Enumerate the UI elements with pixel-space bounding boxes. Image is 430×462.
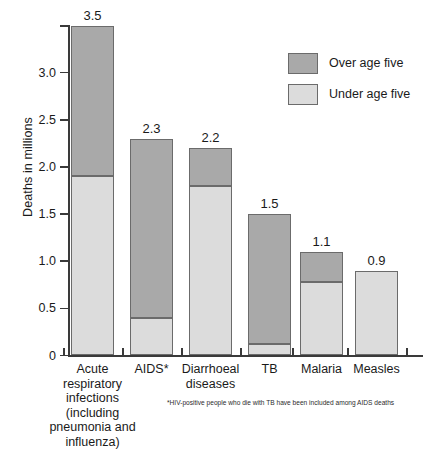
- y-axis-tick: [60, 166, 69, 168]
- bar-group[interactable]: [130, 0, 173, 356]
- legend-item-under-age-five[interactable]: Under age five: [288, 83, 410, 105]
- x-axis-tick: [63, 348, 65, 356]
- legend-label-under-age-five: Under age five: [329, 88, 410, 101]
- y-axis-tick-label: 2.5: [0, 114, 56, 127]
- chart-footnote: *HIV-positive people who die with TB hav…: [167, 399, 394, 407]
- bar-total-label: 1.5: [235, 197, 305, 210]
- bar-segment-over-age-five[interactable]: [248, 214, 291, 344]
- legend: Over age five Under age five: [288, 52, 410, 114]
- y-axis-tick-label: 0.5: [0, 302, 56, 315]
- x-axis-category-label: Measles: [341, 362, 413, 377]
- y-axis-tick: [60, 308, 69, 310]
- bar-segment-under-age-five[interactable]: [355, 271, 398, 356]
- x-axis-category-label: Diarrhoeal diseases: [171, 362, 251, 391]
- y-axis-tick: [60, 119, 69, 121]
- bar-group[interactable]: [189, 0, 232, 356]
- bar-segment-under-age-five[interactable]: [189, 186, 232, 356]
- bar-segment-over-age-five[interactable]: [189, 148, 232, 186]
- y-axis-tick: [60, 355, 69, 357]
- y-axis-tick: [60, 260, 69, 262]
- bar-segment-under-age-five[interactable]: [300, 282, 343, 356]
- x-axis-tick: [240, 348, 242, 356]
- x-axis-tick: [347, 348, 349, 356]
- legend-label-over-age-five: Over age five: [329, 57, 403, 70]
- y-axis-tick-label: 2.0: [0, 161, 56, 174]
- bar-group[interactable]: [71, 0, 114, 356]
- legend-swatch-under-age-five: [288, 84, 318, 105]
- bar-segment-under-age-five[interactable]: [248, 344, 291, 355]
- bar-total-label: 1.1: [287, 235, 357, 248]
- y-axis-tick: [60, 72, 69, 74]
- y-axis-tick-label: 1.5: [0, 208, 56, 221]
- bar-segment-over-age-five[interactable]: [300, 252, 343, 282]
- y-axis-tick: [60, 213, 69, 215]
- bar-segment-over-age-five[interactable]: [130, 139, 173, 318]
- bar-segment-over-age-five[interactable]: [71, 26, 114, 177]
- bar-group[interactable]: [248, 0, 291, 356]
- x-axis-tick: [406, 348, 408, 356]
- stacked-bar-chart: Deaths in millions 00.51.01.52.02.53.0 3…: [0, 0, 430, 462]
- bar-total-label: 0.9: [342, 254, 412, 267]
- y-axis-tick-label: 1.0: [0, 255, 56, 268]
- y-axis-tick-label: 0: [0, 350, 56, 363]
- bar-total-label: 2.2: [176, 131, 246, 144]
- x-axis-tick: [122, 348, 124, 356]
- x-axis-tick: [181, 348, 183, 356]
- y-axis-line: [68, 25, 70, 356]
- bar-total-label: 3.5: [58, 9, 128, 22]
- legend-swatch-over-age-five: [288, 53, 318, 74]
- bar-segment-under-age-five[interactable]: [71, 176, 114, 355]
- y-axis-tick-label: 3.0: [0, 67, 56, 80]
- legend-item-over-age-five[interactable]: Over age five: [288, 52, 410, 74]
- x-axis-tick: [292, 348, 294, 356]
- bar-segment-under-age-five[interactable]: [130, 318, 173, 356]
